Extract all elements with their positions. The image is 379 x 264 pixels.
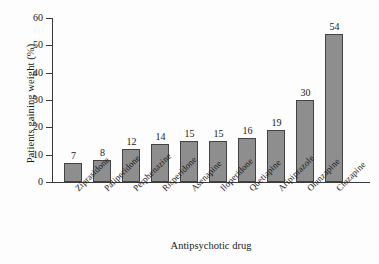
y-axis-tick-label: 60 [19, 12, 43, 23]
y-axis-tick-label: 20 [19, 121, 43, 132]
bar-value-label: 12 [117, 136, 146, 147]
bar-value-label: 16 [233, 125, 262, 136]
x-axis-tick-label-wrap: Aripiprazole [262, 186, 291, 196]
bar-value-label: 19 [262, 117, 291, 128]
x-axis-tick-label-wrap: Ziprasidone [59, 186, 88, 196]
bar-slot: 15 [204, 18, 233, 182]
x-axis-title: Antipsychotic drug [52, 240, 370, 251]
x-axis-tick-label-wrap: Olanzapine [291, 186, 320, 196]
y-axis-tick-label: 30 [19, 94, 43, 105]
x-axis-tick-label-wrap: Risperidone [146, 186, 175, 196]
x-axis-tick-label-wrap: Iloperidone [204, 186, 233, 196]
bar-value-label: 14 [146, 131, 175, 142]
bar-value-label: 15 [204, 128, 233, 139]
x-axis-tick-label-wrap: Clozapine [320, 186, 349, 196]
y-axis-tick-label: 40 [19, 67, 43, 78]
x-axis-tick-label-wrap: Asenapine [175, 186, 204, 196]
x-axis-tick-label-wrap: Quetiapine [233, 186, 262, 196]
bar-value-label: 30 [291, 87, 320, 98]
bar-value-label: 54 [320, 21, 349, 32]
y-axis-tick [46, 182, 52, 183]
bar-value-label: 7 [59, 150, 88, 161]
x-axis-tick-label-wrap: Paliperidone [88, 186, 117, 196]
bar-slot: 7 [59, 18, 88, 182]
bar-value-label: 15 [175, 128, 204, 139]
x-axis-tick-label-wrap: Perphenazine [117, 186, 146, 196]
y-axis-tick-label: 50 [19, 39, 43, 50]
y-axis-tick-label: 0 [19, 176, 43, 187]
y-axis-tick-label: 10 [19, 149, 43, 160]
bar-chart-figure: Patients gaining weight (%) 010203040506… [0, 0, 379, 264]
